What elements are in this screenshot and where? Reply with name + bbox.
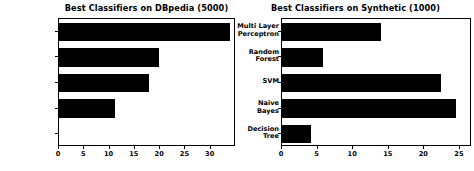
chart-panel-synthetic: Best Classifiers on Synthetic (1000) Mul…: [237, 0, 474, 171]
x-axis-tick-mark: [423, 146, 424, 149]
chart-title-right: Best Classifiers on Synthetic (1000): [237, 3, 474, 13]
y-axis-tick-mark: [278, 133, 281, 134]
x-axis-tick-mark: [159, 146, 160, 149]
bar: [282, 99, 456, 117]
y-axis-tick-mark: [55, 82, 58, 83]
y-axis-tick-mark: [55, 31, 58, 32]
x-axis-tick-label: 0: [279, 150, 284, 158]
x-axis-tick-mark: [134, 146, 135, 149]
chart-panel-dbpedia: Best Classifiers on DBpedia (5000) Multi…: [0, 0, 237, 171]
y-axis-tick-mark: [55, 108, 58, 109]
x-axis-tick-label: 10: [104, 150, 113, 158]
y-axis-tick-mark: [55, 56, 58, 57]
x-axis-tick-mark: [58, 146, 59, 149]
x-axis-tick-mark: [459, 146, 460, 149]
x-axis-tick-label: 25: [454, 150, 463, 158]
plot-area-left: [59, 19, 234, 145]
x-axis-tick-label: 25: [180, 150, 189, 158]
x-axis-tick-mark: [352, 146, 353, 149]
x-axis-tick-label: 20: [155, 150, 164, 158]
x-axis-tick-label: 20: [419, 150, 428, 158]
x-axis-tick-label: 15: [129, 150, 138, 158]
y-axis-tick-mark: [55, 133, 58, 134]
bar: [59, 23, 230, 41]
bar: [282, 74, 441, 92]
y-axis-tick-label: NaïveBayes: [223, 100, 279, 115]
plot-axes-left: [58, 18, 235, 146]
plot-axes-right: [281, 18, 471, 146]
x-axis-tick-mark: [109, 146, 110, 149]
bar: [282, 23, 381, 41]
y-axis-tick-line: Tree: [223, 133, 279, 141]
y-axis-tick-mark: [278, 31, 281, 32]
x-axis-tick-label: 5: [81, 150, 86, 158]
bar: [282, 48, 323, 66]
y-axis-tick-line: Forest: [223, 56, 279, 64]
plot-area-right: [282, 19, 470, 145]
y-axis-tick-line: Bayes: [223, 108, 279, 116]
y-axis-tick-label: Multi LayerPerceptron: [223, 23, 279, 38]
x-axis-tick-mark: [184, 146, 185, 149]
bar: [282, 125, 311, 143]
y-axis-tick-label: DecisionTree: [223, 126, 279, 141]
figure-canvas: Best Classifiers on DBpedia (5000) Multi…: [0, 0, 474, 171]
x-axis-tick-mark: [210, 146, 211, 149]
x-axis-tick-label: 30: [205, 150, 214, 158]
x-axis-tick-mark: [83, 146, 84, 149]
y-axis-tick-mark: [278, 82, 281, 83]
y-axis-tick-line: Perceptron: [223, 31, 279, 39]
bar: [59, 99, 115, 117]
x-axis-tick-label: 5: [314, 150, 319, 158]
y-axis-tick-label: RandomForest: [223, 49, 279, 64]
bar: [59, 74, 149, 92]
y-axis-tick-label: SVM: [223, 78, 279, 86]
bar: [59, 48, 159, 66]
y-axis-tick-mark: [278, 108, 281, 109]
x-axis-tick-mark: [281, 146, 282, 149]
y-axis-tick-line: SVM: [223, 78, 279, 86]
x-axis-tick-mark: [317, 146, 318, 149]
x-axis-tick-label: 15: [383, 150, 392, 158]
x-axis-tick-mark: [388, 146, 389, 149]
x-axis-tick-label: 0: [56, 150, 61, 158]
y-axis-tick-mark: [278, 56, 281, 57]
chart-title-left: Best Classifiers on DBpedia (5000): [58, 3, 235, 13]
x-axis-tick-label: 10: [348, 150, 357, 158]
